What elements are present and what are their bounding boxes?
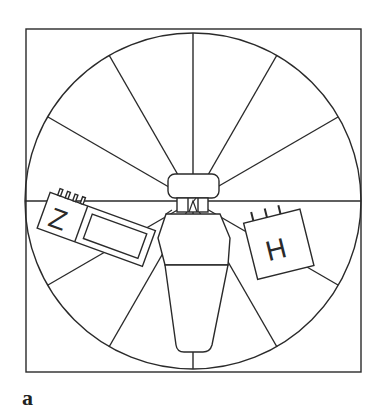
panel-label: a — [22, 385, 33, 411]
upper-body — [158, 214, 230, 265]
top-drum — [168, 174, 219, 198]
diagram-figure: Z H — [0, 0, 386, 412]
module-right: H — [241, 200, 313, 279]
lower-body — [165, 265, 228, 352]
neck — [177, 198, 208, 212]
module-left: Z — [37, 186, 158, 267]
